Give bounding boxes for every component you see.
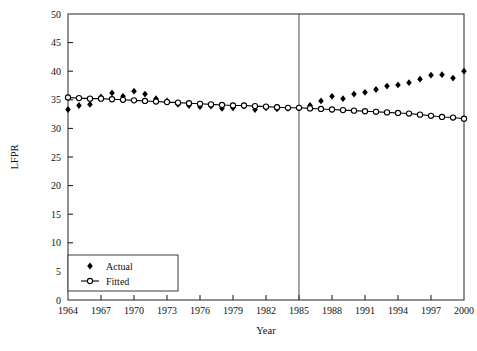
data-point-fitted	[197, 101, 202, 106]
x-tick-label: 1988	[322, 305, 342, 316]
data-point-fitted	[252, 103, 257, 108]
x-tick-label: 1985	[289, 305, 309, 316]
data-point-fitted	[373, 109, 378, 114]
data-point-actual	[395, 82, 401, 89]
data-point-fitted	[329, 107, 334, 112]
data-point-fitted	[406, 111, 411, 116]
data-point-fitted	[263, 104, 268, 109]
y-tick-label: 15	[51, 209, 61, 220]
data-point-fitted	[274, 105, 279, 110]
data-point-fitted	[318, 106, 323, 111]
data-point-fitted	[98, 96, 103, 101]
data-point-fitted	[307, 106, 312, 111]
data-point-actual	[406, 79, 412, 86]
x-tick-label: 2000	[454, 305, 474, 316]
data-point-fitted	[296, 105, 301, 110]
x-tick-label: 1967	[91, 305, 111, 316]
data-point-fitted	[109, 97, 114, 102]
data-point-fitted	[395, 110, 400, 115]
data-point-actual	[329, 93, 335, 100]
y-tick-label: 20	[51, 180, 61, 191]
legend-label-fitted: Fitted	[106, 276, 129, 287]
x-tick-label: 1976	[190, 305, 210, 316]
x-tick-label: 1991	[355, 305, 375, 316]
y-tick-label: 40	[51, 66, 61, 77]
data-point-actual	[76, 102, 82, 109]
data-point-fitted	[76, 95, 81, 100]
data-point-fitted	[428, 113, 433, 118]
y-tick-label: 10	[51, 237, 61, 248]
data-point-actual	[318, 98, 324, 105]
data-point-fitted	[186, 101, 191, 106]
data-point-fitted	[208, 102, 213, 107]
y-tick-label: 45	[51, 37, 61, 48]
legend-marker-fitted	[87, 278, 92, 283]
data-point-fitted	[351, 108, 356, 113]
data-point-fitted	[230, 103, 235, 108]
y-tick-label: 30	[51, 123, 61, 134]
chart-container: 0510152025303540455019641967197019731976…	[0, 0, 477, 351]
data-point-actual	[131, 88, 137, 95]
data-point-actual	[362, 89, 368, 96]
data-point-fitted	[164, 99, 169, 104]
data-point-actual	[351, 91, 357, 98]
x-tick-label: 1982	[256, 305, 276, 316]
data-point-actual	[417, 76, 423, 83]
data-point-fitted	[120, 97, 125, 102]
data-point-fitted	[241, 103, 246, 108]
data-point-actual	[340, 95, 346, 102]
data-point-fitted	[384, 110, 389, 115]
y-tick-label: 0	[56, 295, 61, 306]
x-tick-label: 1964	[58, 305, 78, 316]
data-point-fitted	[340, 107, 345, 112]
data-point-fitted	[131, 98, 136, 103]
data-point-fitted	[142, 98, 147, 103]
data-point-fitted	[450, 115, 455, 120]
x-axis-title: Year	[256, 325, 276, 336]
data-point-actual	[373, 86, 379, 93]
y-axis-title: LFPR	[9, 144, 20, 169]
data-point-actual	[428, 72, 434, 79]
data-point-actual	[87, 101, 93, 108]
data-point-fitted	[417, 112, 422, 117]
x-tick-label: 1973	[157, 305, 177, 316]
x-tick-label: 1970	[124, 305, 144, 316]
legend-label-actual: Actual	[106, 261, 133, 272]
data-point-fitted	[461, 116, 466, 121]
data-point-fitted	[153, 99, 158, 104]
x-tick-label: 1979	[223, 305, 243, 316]
data-point-fitted	[285, 105, 290, 110]
data-point-actual	[384, 83, 390, 90]
data-point-fitted	[219, 102, 224, 107]
x-tick-label: 1994	[388, 305, 408, 316]
y-tick-label: 50	[51, 9, 61, 20]
data-point-actual	[109, 90, 115, 97]
data-point-fitted	[362, 109, 367, 114]
data-point-actual	[65, 106, 71, 113]
data-point-actual	[142, 91, 148, 98]
data-point-fitted	[439, 114, 444, 119]
data-point-fitted	[87, 96, 92, 101]
y-tick-label: 35	[51, 94, 61, 105]
lfpr-chart-svg: 0510152025303540455019641967197019731976…	[0, 0, 477, 351]
x-tick-label: 1997	[421, 305, 441, 316]
data-point-fitted	[175, 100, 180, 105]
data-point-actual	[461, 68, 467, 75]
y-tick-label: 25	[51, 152, 61, 163]
data-point-actual	[450, 75, 456, 82]
data-point-actual	[439, 71, 445, 78]
data-point-fitted	[65, 95, 70, 100]
y-tick-label: 5	[56, 266, 61, 277]
